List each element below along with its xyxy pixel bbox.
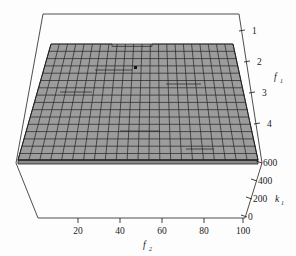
f2-tick-label-60: 60 bbox=[157, 226, 167, 236]
surface-mesh-group bbox=[18, 44, 258, 164]
f2-tick-label-20: 20 bbox=[73, 226, 83, 236]
f2-axis-title: f bbox=[143, 240, 147, 250]
f1-tick-label-4: 4 bbox=[267, 119, 272, 129]
k1-tick-marks bbox=[241, 161, 262, 217]
k1-axis-title: k bbox=[275, 194, 280, 204]
k1-tick-label-400: 400 bbox=[258, 176, 273, 186]
f1-tick-label-3: 3 bbox=[262, 88, 267, 98]
f1-axis-title: f bbox=[274, 72, 278, 82]
k1-tick-label-200: 200 bbox=[253, 194, 268, 204]
k1-tick-label-600: 600 bbox=[263, 158, 278, 168]
box-left-front-pillar bbox=[16, 163, 38, 218]
f2-tick-marks bbox=[78, 218, 243, 223]
f1-tick-label-1: 1 bbox=[252, 26, 257, 36]
f1-axis-title-subscript: 1 bbox=[280, 78, 283, 84]
surface-front-face bbox=[18, 160, 258, 164]
k1-axis-title-subscript: 1 bbox=[281, 200, 284, 206]
f2-tick-label-40: 40 bbox=[115, 226, 125, 236]
box-right-front-pillar bbox=[245, 163, 262, 218]
f1-tick-label-2: 2 bbox=[257, 57, 262, 67]
f2-tick-label-100: 100 bbox=[236, 226, 251, 236]
f2-axis-group: 20 40 60 80 100 f 2 bbox=[73, 218, 250, 252]
figure-root: 1 2 3 4 f 1 600 400 200 0 k 1 bbox=[0, 0, 296, 256]
surface-plot-canvas: 1 2 3 4 f 1 600 400 200 0 k 1 bbox=[0, 0, 296, 256]
f2-tick-label-80: 80 bbox=[199, 226, 209, 236]
f2-axis-title-subscript: 2 bbox=[149, 246, 152, 252]
k1-axis-group: 600 400 200 0 k 1 bbox=[241, 158, 284, 222]
k1-tick-label-0: 0 bbox=[248, 212, 253, 222]
